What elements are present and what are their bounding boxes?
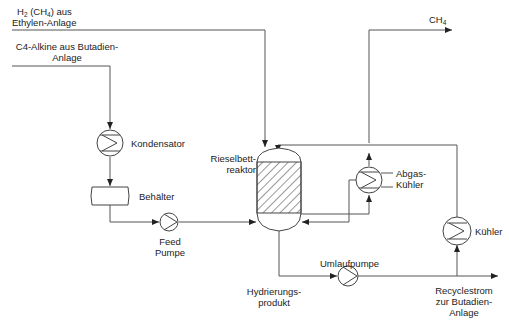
condenser-label: Kondensator <box>131 138 185 149</box>
h2-feed-source-label: Ethylen-Anlage <box>12 17 76 28</box>
offgas-cooler-label: Abgas- Kühler <box>396 168 426 190</box>
offgas-cooler-icon <box>356 167 382 193</box>
h2-feed-label: H2 (CH4) aus <box>17 6 72 17</box>
cooler-icon <box>443 217 471 245</box>
product-label: Hydrierungs- produkt <box>244 286 304 308</box>
ch4-vent-line <box>369 30 452 143</box>
ch4-label: CH4 <box>429 14 446 25</box>
c4-feed-line <box>12 66 110 129</box>
vessel-to-pump-line <box>110 205 159 222</box>
reactor-label: Rieselbett- reaktor <box>200 153 256 175</box>
vessel-icon <box>91 187 129 205</box>
c4-feed-label: C4-Alkine aus Butadien- Anlage <box>12 41 122 63</box>
feed-pump-icon <box>160 213 178 231</box>
offgas-line <box>301 195 369 214</box>
reactor-icon <box>257 148 301 231</box>
condensate-return-line <box>302 180 357 222</box>
vessel-label: Behälter <box>139 191 174 202</box>
feed-pump-label: Feed Pumpe <box>150 236 190 258</box>
reactor-outlet-line <box>279 231 337 276</box>
recycle-label: Recyclestrom zur Butadien- Anlage <box>430 285 498 318</box>
condenser-icon <box>97 130 123 156</box>
circulation-pump-icon <box>338 266 358 286</box>
circulation-pump-label: Umlaufpumpe <box>320 258 379 269</box>
cooler-label: Kühler <box>475 226 502 237</box>
